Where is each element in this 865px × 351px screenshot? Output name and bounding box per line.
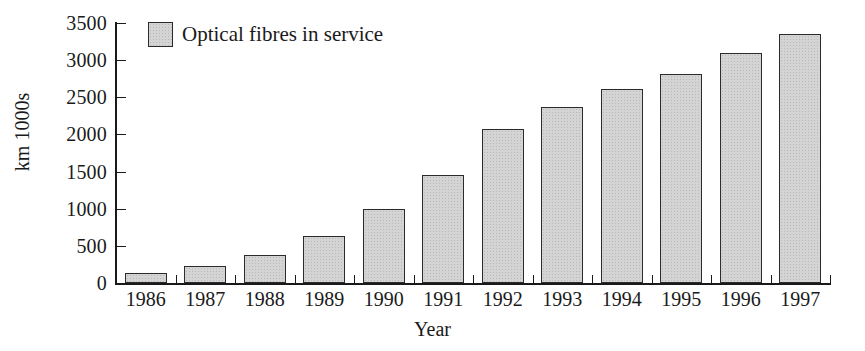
y-axis-tick-label-wrap: 2000 (45, 124, 107, 144)
y-axis-tick-label-wrap: 3000 (45, 50, 107, 70)
y-axis-tick-label: 2000 (45, 124, 107, 144)
bar-1989 (303, 236, 345, 283)
x-axis-tick (711, 275, 712, 283)
x-axis-tick (176, 275, 177, 283)
x-axis-title: Year (0, 318, 865, 340)
y-axis-tick-label: 1000 (45, 199, 107, 219)
y-axis-tick-label-wrap: 1500 (45, 162, 107, 182)
y-axis-tick-label: 500 (45, 236, 107, 256)
bar-1987 (184, 266, 226, 283)
x-axis-tick (354, 275, 355, 283)
y-axis-tick-label: 0 (45, 273, 107, 293)
y-axis-tick-label-wrap: 2500 (45, 87, 107, 107)
y-axis-tick-label: 3500 (45, 13, 107, 33)
bar-1986 (125, 273, 167, 283)
x-axis-tick (235, 275, 236, 283)
bar-1993 (541, 107, 583, 283)
y-axis-tick-label: 2500 (45, 87, 107, 107)
bar-1996 (720, 53, 762, 283)
x-axis-tick (414, 275, 415, 283)
bar-chart-figure: km 1000s 0500100015002000250030003500 19… (0, 0, 865, 351)
x-axis-tick (473, 275, 474, 283)
bar-1992 (482, 129, 524, 283)
bar-1995 (660, 74, 702, 283)
bar-1991 (422, 175, 464, 283)
bar-1997 (779, 34, 821, 283)
x-axis-line (115, 283, 831, 285)
y-axis-tick-label-wrap: 500 (45, 236, 107, 256)
plot-area (116, 23, 830, 283)
x-axis-tick (295, 275, 296, 283)
y-axis-tick-label-wrap: 0 (45, 273, 107, 293)
y-axis-tick-label: 3000 (45, 50, 107, 70)
y-axis-tick-label-wrap: 3500 (45, 13, 107, 33)
y-axis-tick (117, 283, 126, 284)
x-axis-tick (771, 275, 772, 283)
legend-swatch-optical-fibres (148, 22, 173, 47)
x-axis-tick (830, 275, 831, 283)
y-axis-tick-label-wrap: 1000 (45, 199, 107, 219)
y-axis-title: km 1000s (12, 72, 32, 192)
x-axis-tick-label: 1997 (765, 288, 835, 310)
x-axis-tick (116, 275, 117, 283)
bar-1988 (244, 255, 286, 283)
bar-1994 (601, 89, 643, 283)
legend-label-optical-fibres: Optical fibres in service (182, 24, 383, 45)
x-axis-tick (652, 275, 653, 283)
chart-legend: Optical fibres in service (148, 22, 383, 47)
x-axis-tick (533, 275, 534, 283)
x-axis-tick (592, 275, 593, 283)
y-axis-tick-label: 1500 (45, 162, 107, 182)
bar-1990 (363, 209, 405, 283)
